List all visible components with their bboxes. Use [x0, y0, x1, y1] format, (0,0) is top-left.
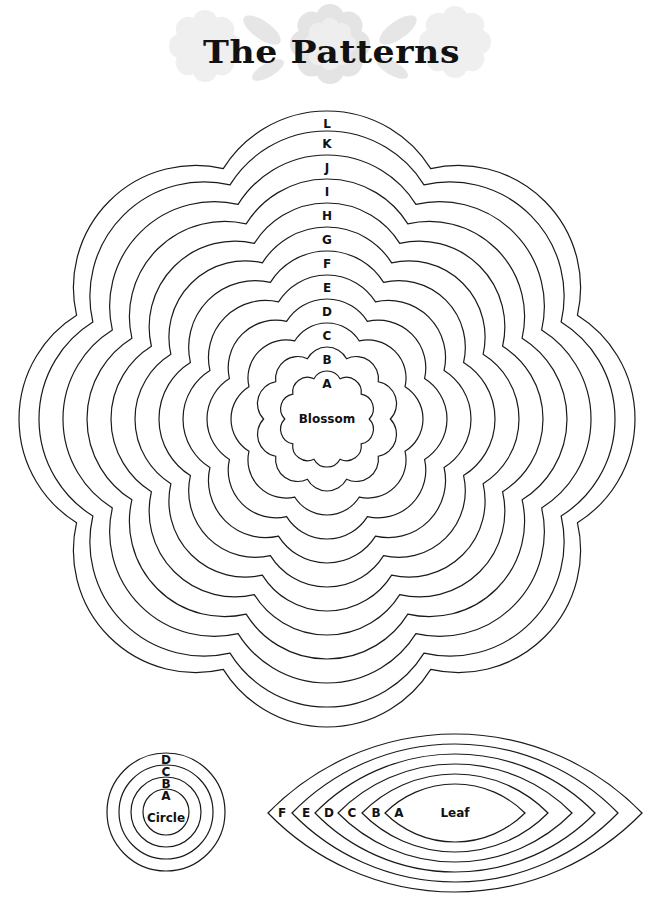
leaf-name-label: Leaf	[440, 806, 470, 820]
leaf-ring-label: F	[278, 806, 286, 820]
circle-ring-label: B	[161, 777, 170, 791]
blossom-ring-label: I	[325, 185, 329, 199]
leaf-pattern: ABCDEFLeaf	[268, 734, 642, 892]
blossom-pattern: ABCDEFGHIJKLBlossom	[19, 111, 635, 727]
leaf-ring-label: A	[394, 806, 404, 820]
blossom-ring-label: E	[323, 281, 331, 295]
circle-ring-label: C	[162, 765, 171, 779]
blossom-ring-label: A	[322, 377, 332, 391]
blossom-ring-label: G	[322, 233, 332, 247]
circle-name-label: Circle	[147, 811, 185, 825]
leaf-ring-label: D	[324, 806, 334, 820]
blossom-ring-label: J	[324, 161, 329, 175]
blossom-ring-label: K	[322, 137, 332, 151]
blossom-ring-label: F	[323, 257, 331, 271]
blossom-ring-label: B	[322, 353, 331, 367]
circle-ring-label: A	[161, 789, 171, 803]
page-title: The Patterns	[0, 34, 663, 70]
blossom-ring-label: L	[323, 117, 331, 131]
patterns-canvas: ABCDEFGHIJKLBlossom ABCDCircle ABCDEFLea…	[0, 0, 663, 913]
blossom-ring-label: H	[322, 209, 332, 223]
leaf-ring-label: E	[302, 806, 310, 820]
leaf-ring-label: C	[348, 806, 357, 820]
blossom-ring-label: D	[322, 305, 332, 319]
blossom-ring-label: C	[323, 329, 332, 343]
blossom-name-label: Blossom	[299, 412, 356, 426]
circle-ring-label: D	[161, 753, 171, 767]
circle-pattern: ABCDCircle	[107, 753, 225, 872]
leaf-ring-label: B	[371, 806, 380, 820]
